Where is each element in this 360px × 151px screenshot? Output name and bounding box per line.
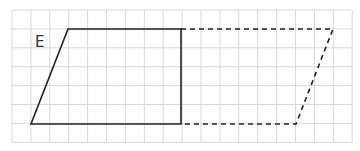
dashed-shape	[181, 29, 333, 124]
grid-diagram: E	[0, 0, 360, 151]
grid-lines	[12, 10, 352, 142]
shape-label: E	[35, 33, 44, 51]
